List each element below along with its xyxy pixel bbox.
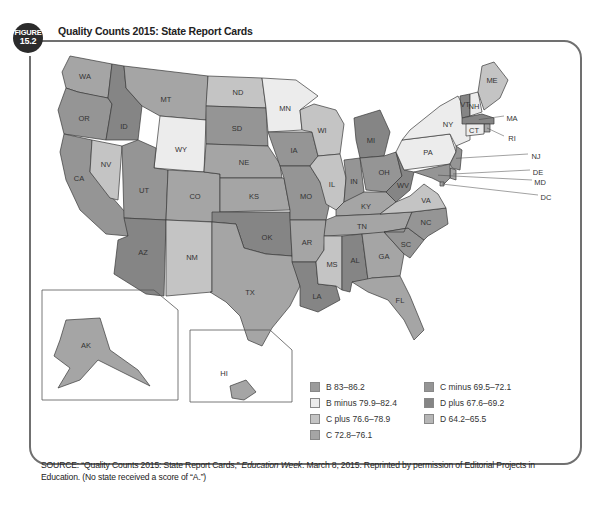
state-label-il: IL bbox=[329, 180, 335, 189]
state-label-fl: FL bbox=[396, 296, 405, 305]
state-label-nj: NJ bbox=[531, 152, 540, 161]
state-label-md: MD bbox=[534, 178, 546, 187]
state-label-co: CO bbox=[189, 192, 200, 201]
state-fl bbox=[352, 276, 424, 340]
state-label-in: IN bbox=[350, 177, 358, 186]
state-label-ca: CA bbox=[74, 174, 84, 183]
state-label-ri: RI bbox=[508, 134, 516, 143]
state-label-mn: MN bbox=[279, 104, 291, 113]
state-label-or: OR bbox=[78, 114, 90, 123]
legend-item: C 72.8–76.1 bbox=[310, 430, 372, 440]
legend-swatch bbox=[424, 382, 434, 392]
state-label-de: DE bbox=[533, 168, 543, 177]
state-label-al: AL bbox=[350, 256, 359, 265]
state-label-ms: MS bbox=[326, 260, 337, 269]
state-label-ma: MA bbox=[506, 114, 517, 123]
state-label-me: ME bbox=[486, 76, 497, 85]
state-label-ia: IA bbox=[290, 146, 297, 155]
state-label-wy: WY bbox=[175, 145, 187, 154]
state-label-nc: NC bbox=[421, 218, 432, 227]
state-label-wv: WV bbox=[397, 181, 409, 190]
callout-line bbox=[456, 154, 528, 158]
legend-item: C plus 76.6–78.9 bbox=[310, 414, 390, 424]
state-label-hi: HI bbox=[220, 369, 228, 378]
state-label-va: VA bbox=[421, 196, 430, 205]
state-label-ny: NY bbox=[443, 120, 453, 129]
state-label-ar: AR bbox=[302, 238, 313, 247]
state-label-dc: DC bbox=[541, 193, 552, 202]
state-label-wi: WI bbox=[317, 126, 326, 135]
state-label-nm: NM bbox=[186, 253, 198, 262]
legend-swatch bbox=[310, 430, 320, 440]
us-state-map: WAORCAIDNVMTWYUTAZCONMNDSDNEKSOKTXMNIAMO… bbox=[0, 0, 608, 510]
legend-item: D 64.2–65.5 bbox=[424, 414, 486, 424]
state-me bbox=[478, 62, 508, 110]
source-note: SOURCE: “Quality Counts 2015: State Repo… bbox=[41, 459, 571, 483]
state-label-oh: OH bbox=[378, 168, 389, 177]
callout-line bbox=[442, 184, 538, 195]
state-label-mi: MI bbox=[367, 136, 375, 145]
state-label-sc: SC bbox=[401, 240, 412, 249]
state-label-wa: WA bbox=[79, 72, 91, 81]
legend-swatch bbox=[424, 414, 434, 424]
legend-item: D plus 67.6–69.2 bbox=[424, 398, 504, 408]
state-label-ks: KS bbox=[249, 192, 259, 201]
legend-swatch bbox=[310, 414, 320, 424]
legend-item: B minus 79.9–82.4 bbox=[310, 398, 397, 408]
state-label-ne: NE bbox=[239, 158, 249, 167]
state-label-ut: UT bbox=[139, 186, 149, 195]
state-label-pa: PA bbox=[423, 148, 432, 157]
legend-item: C minus 69.5–72.1 bbox=[424, 382, 511, 392]
legend-item: B 83–86.2 bbox=[310, 382, 365, 392]
state-label-sd: SD bbox=[232, 124, 243, 133]
state-label-tn: TN bbox=[357, 222, 367, 231]
state-label-mo: MO bbox=[300, 192, 312, 201]
legend-swatch bbox=[424, 398, 434, 408]
state-ak bbox=[54, 318, 150, 388]
state-hi bbox=[230, 380, 256, 400]
state-label-az: AZ bbox=[138, 248, 148, 257]
figure-badge: FIGURE 15.2 bbox=[13, 23, 43, 53]
legend-swatch bbox=[310, 382, 320, 392]
state-label-nd: ND bbox=[233, 88, 244, 97]
callout-line bbox=[453, 170, 530, 174]
legend-swatch bbox=[310, 398, 320, 408]
state-label-id: ID bbox=[120, 122, 128, 131]
state-label-nh: NH bbox=[469, 102, 480, 111]
state-label-tx: TX bbox=[245, 288, 255, 297]
state-label-ok: OK bbox=[262, 233, 273, 242]
state-label-nv: NV bbox=[101, 160, 111, 169]
state-label-la: LA bbox=[312, 292, 321, 301]
state-mi bbox=[354, 110, 390, 158]
state-label-ct: CT bbox=[469, 126, 479, 135]
state-label-mt: MT bbox=[161, 95, 172, 104]
state-label-ky: KY bbox=[361, 202, 371, 211]
state-label-ak: AK bbox=[81, 341, 91, 350]
state-label-ga: GA bbox=[379, 252, 390, 261]
